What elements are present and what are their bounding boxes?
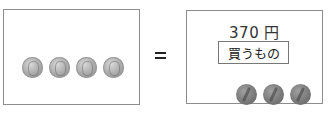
item-label: 買うもの (228, 43, 280, 62)
dark-coin-icon (263, 84, 284, 105)
left-coin-row (22, 57, 124, 78)
silver-coin-icon (76, 57, 97, 78)
item-label-box: 買うもの (218, 41, 289, 64)
silver-coin-icon (103, 57, 124, 78)
silver-coin-icon (22, 57, 43, 78)
equals-sign (155, 51, 166, 61)
right-purchase-box: 370 円 買うもの (186, 10, 323, 104)
dark-coin-icon (236, 84, 257, 105)
silver-coin-icon (49, 57, 70, 78)
right-coin-row (236, 84, 311, 105)
price-label: 370 円 (187, 21, 322, 42)
dark-coin-icon (290, 84, 311, 105)
left-coin-box (3, 9, 140, 105)
